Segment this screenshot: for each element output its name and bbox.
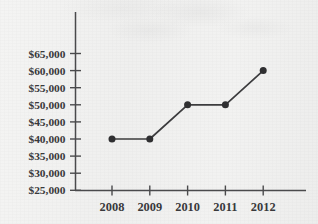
data-point-marker: 2009: $40,000 [146, 136, 153, 143]
x-axis-tick-labels: 20082009201020112012 [100, 200, 276, 214]
chart-canvas: $65,000$60,000$55,000$50,000$45,000$40,0… [0, 0, 318, 224]
data-point-markers: 2008: $40,0002009: $40,0002010: $50,0002… [109, 67, 267, 142]
y-tick-label: $55,000 [28, 82, 65, 94]
data-point-marker: 2008: $40,000 [109, 136, 116, 143]
y-tick-label: $30,000 [28, 167, 65, 179]
x-tick-label: 2011 [213, 200, 237, 214]
y-tick-label: $25,000 [28, 184, 65, 196]
y-tick-label: $60,000 [28, 65, 65, 77]
y-tick-label: $45,000 [28, 116, 65, 128]
y-tick-label: $65,000 [28, 48, 65, 60]
x-tick-label: 2010 [175, 200, 200, 214]
data-series-group: 2008: $40,0002009: $40,0002010: $50,0002… [109, 67, 267, 142]
y-tick-label: $50,000 [28, 99, 65, 111]
y-tick-label: $40,000 [28, 133, 65, 145]
x-tick-label: 2008 [100, 200, 125, 214]
data-point-marker: 2011: $50,000 [222, 101, 229, 108]
x-tick-label: 2012 [251, 200, 276, 214]
data-point-marker: 2010: $50,000 [184, 101, 191, 108]
data-point-marker: 2012: $60,000 [260, 67, 267, 74]
x-tick-label: 2009 [137, 200, 162, 214]
chart-axes [75, 12, 306, 191]
y-tick-label: $35,000 [28, 150, 65, 162]
y-axis-tick-labels: $65,000$60,000$55,000$50,000$45,000$40,0… [28, 48, 65, 197]
line-chart-figure: $65,000$60,000$55,000$50,000$45,000$40,0… [0, 0, 318, 224]
